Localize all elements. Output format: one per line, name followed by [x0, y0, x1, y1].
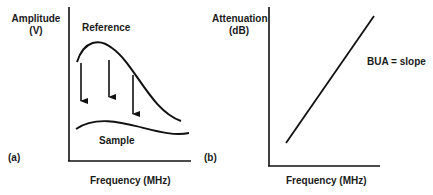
panel-b-y-label-line2: (dB) — [212, 25, 266, 37]
bua-line — [286, 16, 374, 143]
panel-b-y-label-line1: Attenuation — [212, 13, 266, 25]
bua-annotation: BUA = slope — [367, 56, 426, 68]
panel-b-x-label: Frequency (MHz) — [286, 175, 367, 187]
panel-a-tag: (a) — [8, 152, 20, 164]
panel-a-y-label: Amplitude (V) — [8, 13, 64, 37]
panel-b-tag: (b) — [204, 152, 217, 164]
panel-a-y-label-line1: Amplitude — [8, 13, 64, 25]
panel-a-y-label-line2: (V) — [8, 25, 64, 37]
panel-b-y-label: Attenuation (dB) — [212, 13, 266, 37]
sample-label: Sample — [99, 135, 135, 147]
attenuation-arrows — [81, 60, 133, 114]
reference-curve — [77, 42, 181, 121]
reference-label: Reference — [82, 22, 130, 34]
panel-a-x-label: Frequency (MHz) — [90, 175, 171, 187]
sample-curve — [76, 121, 189, 134]
